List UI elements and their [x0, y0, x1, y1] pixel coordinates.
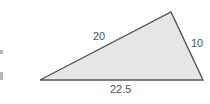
triangle-shape [40, 12, 203, 80]
triangle-diagram [0, 0, 210, 104]
side-label-right: 10 [191, 38, 203, 49]
side-label-left: 20 [93, 31, 105, 42]
figure-canvas: 20 10 22.5 [0, 0, 210, 104]
side-label-base: 22.5 [110, 84, 131, 95]
